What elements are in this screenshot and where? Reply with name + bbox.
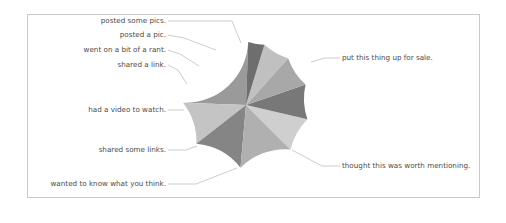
leader-line: [168, 21, 241, 43]
pie-slice-label: posted a pic.: [120, 30, 166, 39]
leader-line: [168, 168, 237, 184]
leader-line: [168, 65, 187, 84]
leader-line: [168, 35, 216, 50]
leader-line: [311, 58, 340, 62]
pie-slices-group: [183, 42, 307, 168]
pie-slice: [183, 42, 248, 105]
leader-line: [292, 150, 340, 166]
pie-slice-label: shared a link.: [118, 60, 166, 69]
pie-slice-label: had a video to watch.: [88, 105, 166, 114]
pie-slice-label: wanted to know what you think.: [50, 179, 166, 188]
pie-chart-figure: put this thing up for sale.thought this …: [0, 0, 506, 223]
leader-line: [168, 146, 197, 150]
pie-slice-label: thought this was worth mentioning.: [342, 161, 470, 170]
pie-slice-label: went on a bit of a rant.: [84, 45, 166, 54]
pie-slice-label: shared some links.: [99, 145, 166, 154]
pie-slice-label: posted some pics.: [101, 16, 166, 25]
pie-slice-label: put this thing up for sale.: [342, 53, 433, 62]
leader-line: [168, 50, 199, 66]
pie-chart-svg: put this thing up for sale.thought this …: [0, 0, 506, 223]
